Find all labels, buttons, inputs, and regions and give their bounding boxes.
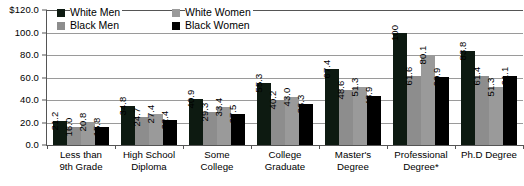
- bar-value-label: 67.4: [322, 60, 332, 79]
- legend-label: Black Men: [70, 20, 121, 31]
- legend-item-black-women: Black Women: [172, 20, 287, 31]
- bar[interactable]: 61.6: [407, 10, 421, 145]
- bar-fill: [435, 77, 449, 146]
- chart-legend: White Men White Women Black Men Black Wo…: [57, 6, 287, 32]
- bar-value-label: 20.8: [78, 112, 88, 131]
- legend-swatch-icon: [57, 9, 65, 17]
- bar-group: 83.861.451.361.1: [455, 10, 523, 145]
- bars: 10061.680.160.9: [393, 10, 449, 145]
- y-axis-tick-label: 60.0: [20, 73, 39, 83]
- bar-value-label: 29.3: [200, 103, 210, 122]
- bars: 67.448.651.343.9: [325, 10, 381, 145]
- x-axis-label: Master'sDegree: [319, 149, 387, 172]
- bar-value-label: 60.9: [432, 67, 442, 86]
- bar-value-label: 34.8: [118, 96, 128, 115]
- x-axis-label: High SchoolDiploma: [115, 149, 183, 172]
- bar-value-label: 61.6: [404, 66, 414, 85]
- legend-label: White Men: [70, 7, 122, 18]
- bar-value-label: 43.0: [282, 87, 292, 106]
- bar[interactable]: 43.0: [285, 10, 299, 145]
- legend-row: Black Men Black Women: [57, 19, 287, 32]
- bar[interactable]: 51.3: [353, 10, 367, 145]
- legend-swatch-icon: [57, 22, 65, 30]
- bar[interactable]: 36.3: [299, 10, 313, 145]
- bar-value-label: 83.8: [458, 41, 468, 60]
- legend-item-white-women: White Women: [172, 7, 287, 18]
- bar-value-label: 61.1: [500, 67, 510, 86]
- bar-value-label: 24.7: [132, 108, 142, 127]
- bar-value-label: 51.3: [350, 78, 360, 97]
- bar-value-label: 48.6: [336, 81, 346, 100]
- legend-label: Black Women: [185, 20, 252, 31]
- bar-value-label: 21.2: [50, 112, 60, 131]
- bar-value-label: 51.3: [486, 78, 496, 97]
- legend-item-black-men: Black Men: [57, 20, 172, 31]
- bar-value-label: 16.0: [64, 118, 74, 137]
- legend-label: White Women: [185, 7, 253, 18]
- bar-value-label: 22.4: [160, 110, 170, 129]
- y-axis: $120.0100.080.060.040.020.00.0: [0, 0, 47, 146]
- bar[interactable]: 67.4: [325, 10, 339, 145]
- bar-value-label: 15.8: [92, 118, 102, 137]
- bar-value-label: 27.4: [146, 105, 156, 124]
- y-axis-tick-label: 100.0: [15, 28, 39, 38]
- bar-value-label: 27.5: [228, 105, 238, 124]
- bar-value-label: 100: [390, 24, 400, 40]
- y-axis-tick-label: 20.0: [20, 118, 39, 128]
- bar[interactable]: 60.9: [435, 10, 449, 145]
- bar-value-label: 40.2: [268, 90, 278, 109]
- bar-value-label: 55.3: [254, 73, 264, 92]
- bars: 83.861.451.361.1: [461, 10, 517, 145]
- bar-value-label: 33.4: [214, 98, 224, 117]
- y-axis-tick-label: 40.0: [20, 95, 39, 105]
- bar-group: 67.448.651.343.9: [319, 10, 387, 145]
- x-axis-label: Ph.D Degree: [455, 149, 523, 172]
- x-axis-labels: Less than9th GradeHigh SchoolDiplomaSome…: [47, 149, 523, 172]
- bar-fill: [393, 33, 407, 146]
- x-axis-label: CollegeGraduate: [251, 149, 319, 172]
- bar-value-label: 43.9: [364, 86, 374, 105]
- bar-fill: [503, 76, 517, 145]
- bar-value-label: 36.3: [296, 95, 306, 114]
- bar-fill: [407, 76, 421, 145]
- x-axis-label: SomeCollege: [183, 149, 251, 172]
- legend-swatch-icon: [172, 9, 180, 17]
- bar-fill: [461, 51, 475, 145]
- bar-value-label: 40.9: [186, 90, 196, 109]
- bar-value-label: 61.4: [472, 66, 482, 85]
- bar[interactable]: 61.1: [503, 10, 517, 145]
- x-axis-line: [46, 145, 523, 146]
- bar[interactable]: 43.9: [367, 10, 381, 145]
- bar-value-label: 80.1: [418, 45, 428, 64]
- y-axis-tick-label: $120.0: [9, 5, 39, 15]
- y-axis-tick-label: 80.0: [20, 50, 39, 60]
- legend-swatch-icon: [172, 22, 180, 30]
- y-axis-tick-label: 0.0: [25, 140, 39, 150]
- x-axis-label: Less than9th Grade: [47, 149, 115, 172]
- bar-group: 10061.680.160.9: [387, 10, 455, 145]
- legend-item-white-men: White Men: [57, 7, 172, 18]
- bar-chart: $120.0100.080.060.040.020.00.0 21.216.02…: [0, 0, 524, 186]
- legend-row: White Men White Women: [57, 6, 287, 19]
- x-axis-label: ProfessionalDegree*: [387, 149, 455, 172]
